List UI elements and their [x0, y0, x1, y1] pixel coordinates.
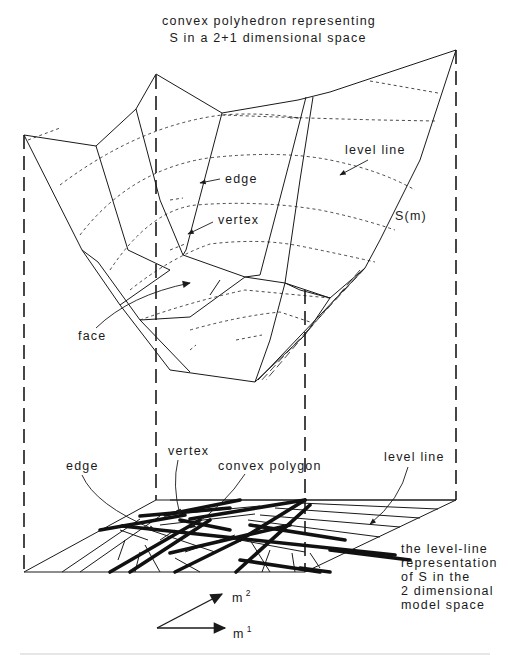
label-edge-upper: edge: [225, 172, 258, 186]
upper-labels: edge vertex level line S(m) face: [78, 143, 427, 343]
m1-label: m1: [233, 624, 253, 641]
projection-lines: [24, 50, 456, 572]
m2-label: m2: [232, 588, 252, 605]
caption-line-1: the level-line: [401, 542, 488, 556]
caption-line-5: model space: [401, 598, 485, 612]
lower-labels: edge vertex convex polygon level line: [66, 444, 445, 530]
label-edge-lower: edge: [66, 459, 99, 473]
caption-line-4: 2 dimensional: [401, 584, 494, 598]
edge-b: [136, 109, 183, 255]
label-vertex-upper: vertex: [218, 213, 259, 227]
polyhedron-rim: [24, 50, 456, 146]
label-level-line-upper: level line: [345, 143, 406, 157]
label-vertex-lower: vertex: [168, 444, 209, 458]
title-line-1: convex polyhedron representing: [162, 14, 376, 28]
axes-indicator: m2 m1: [157, 588, 253, 641]
polyhedron-left-inner-edge: [82, 250, 190, 372]
label-s-of-m: S(m): [395, 209, 427, 223]
edge-g: [245, 97, 306, 277]
label-level-line-lower: level line: [384, 450, 445, 464]
title: convex polyhedron representing S in a 2+…: [162, 14, 376, 45]
caption-line-2: representation: [401, 556, 498, 570]
caption: the level-line representation of S in th…: [401, 542, 498, 612]
edge-d: [183, 255, 330, 298]
polyhedron-left-edge: [24, 135, 255, 382]
caption-line-3: of S in the: [401, 570, 471, 584]
model-space-plane: [24, 500, 456, 572]
edge-e: [120, 270, 170, 305]
m2-axis-arrow: [157, 594, 222, 628]
edge-a: [96, 146, 170, 270]
polyhedron-diagram: convex polyhedron representing S in a 2+…: [0, 0, 510, 655]
label-face: face: [78, 329, 106, 343]
title-line-2: S in a 2+1 dimensional space: [169, 31, 366, 45]
label-convex-polygon: convex polygon: [218, 459, 322, 473]
